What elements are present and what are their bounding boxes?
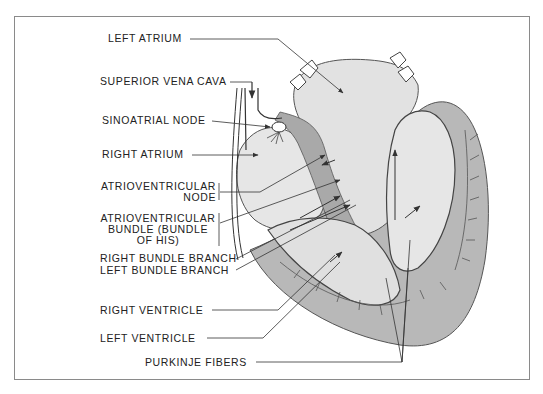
label-right-ventricle: RIGHT VENTRICLE (100, 305, 203, 316)
label-right-atrium: RIGHT ATRIUM (102, 149, 183, 160)
sinoatrial-node (272, 122, 286, 132)
label-purkinje-fibers: PURKINJE FIBERS (145, 357, 247, 368)
label-right-bundle-branch: RIGHT BUNDLE BRANCH (100, 253, 237, 264)
heart-illustration (0, 0, 543, 394)
label-sinoatrial-node: SINOATRIAL NODE (102, 115, 206, 126)
label-left-ventricle: LEFT VENTRICLE (100, 333, 196, 344)
label-superior-vena-cava: SUPERIOR VENA CAVA (100, 76, 227, 87)
label-av-bundle-3: OF HIS) (100, 235, 216, 246)
label-left-bundle-branch: LEFT BUNDLE BRANCH (100, 265, 229, 276)
label-left-atrium: LEFT ATRIUM (108, 33, 182, 44)
label-av-node-2: NODE (100, 192, 216, 203)
